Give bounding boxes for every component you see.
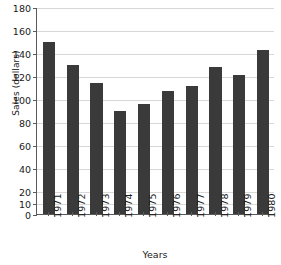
- x-tick-mark: [191, 212, 192, 216]
- x-tick-mark: [96, 212, 97, 216]
- y-tick-label: 0: [25, 210, 31, 221]
- bar-chart: Sales (dollars) 010204060801001201401601…: [0, 0, 281, 265]
- x-tick-label: 1979: [242, 193, 253, 218]
- bar: [257, 50, 269, 214]
- x-tick-mark: [262, 212, 263, 216]
- x-axis-title: Years: [36, 249, 274, 260]
- y-tick-label: 140: [13, 49, 31, 60]
- x-tick-label: 1978: [219, 193, 230, 218]
- y-tick-label: 20: [19, 187, 31, 198]
- bar: [67, 65, 79, 215]
- x-tick-mark: [215, 212, 216, 216]
- y-tick-label: 80: [19, 118, 31, 129]
- y-tick-label: 40: [19, 164, 31, 175]
- x-tick-label: 1973: [100, 193, 111, 218]
- y-tick-label: 120: [13, 72, 31, 83]
- x-tick-label: 1972: [76, 193, 87, 218]
- x-tick-mark: [119, 212, 120, 216]
- y-tick-label: 100: [13, 95, 31, 106]
- bar-series: [37, 8, 274, 214]
- x-tick-label: 1975: [147, 193, 158, 218]
- bar: [43, 42, 55, 215]
- bar: [209, 67, 221, 214]
- x-tick-label: 1974: [123, 193, 134, 218]
- y-tick-label: 180: [13, 3, 31, 14]
- x-tick-mark: [72, 212, 73, 216]
- plot-area: 01020406080100120140160180: [36, 8, 274, 215]
- x-tick-label: 1976: [171, 193, 182, 218]
- y-tick-label: 160: [13, 26, 31, 37]
- y-tick-label: 60: [19, 141, 31, 152]
- y-tick-label: 10: [19, 198, 31, 209]
- x-tick-mark: [238, 212, 239, 216]
- x-tick-mark: [143, 212, 144, 216]
- x-axis-ticks: 1971197219731974197519761977197819791980: [36, 216, 274, 246]
- x-tick-mark: [48, 212, 49, 216]
- x-tick-label: 1977: [195, 193, 206, 218]
- x-tick-label: 1980: [266, 193, 277, 218]
- x-tick-label: 1971: [52, 193, 63, 218]
- x-tick-mark: [167, 212, 168, 216]
